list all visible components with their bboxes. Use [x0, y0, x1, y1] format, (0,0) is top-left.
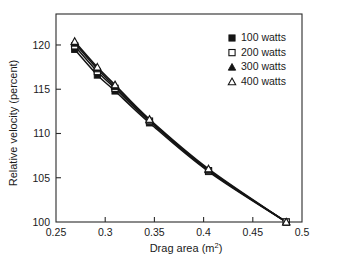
legend-marker — [229, 50, 235, 56]
x-axis-title: Drag area (m2) — [150, 241, 223, 254]
y-tick-label: 120 — [32, 39, 50, 51]
x-tick-label: 0.5 — [295, 226, 310, 238]
chart-canvas: 0.250.30.350.40.450.5 100105110115120 10… — [0, 0, 355, 265]
y-tick-label: 105 — [32, 172, 50, 184]
y-tick-label: 115 — [33, 83, 50, 95]
y-tick-label: 110 — [33, 127, 50, 139]
legend-marker — [229, 35, 235, 41]
legend-label: 100 watts — [241, 31, 286, 43]
y-axis-title: Relative velocity (percent) — [7, 60, 19, 187]
x-tick-label: 0.45 — [243, 226, 264, 238]
x-tick-label: 0.4 — [196, 226, 211, 238]
legend-label: 400 watts — [241, 75, 286, 87]
y-tick-label: 100 — [32, 216, 50, 228]
x-tick-label: 0.3 — [98, 226, 113, 238]
legend-label: 300 watts — [241, 60, 286, 72]
chart-figure: 0.250.30.350.40.450.5 100105110115120 10… — [0, 0, 355, 265]
legend-label: 200 watts — [241, 46, 286, 58]
x-tick-label: 0.35 — [144, 226, 165, 238]
